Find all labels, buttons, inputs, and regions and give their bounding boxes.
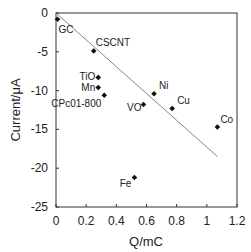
y-axis: 0-5-10-15-20-25: [31, 6, 59, 214]
plot-frame: [56, 13, 237, 207]
y-tick-label: -20: [31, 161, 49, 175]
x-axis: 00.20.40.60.811.2: [53, 204, 246, 228]
data-point-marker: [95, 85, 101, 91]
data-point-label: GC: [59, 24, 74, 35]
data-point-marker: [141, 102, 147, 108]
data-point-marker: [101, 92, 107, 98]
data-point-marker: [151, 91, 157, 97]
x-tick-label: 1.2: [229, 214, 246, 228]
data-point-label: Mn: [81, 82, 95, 93]
y-axis-label: Current/μA: [8, 78, 23, 141]
y-tick-label: 0: [41, 6, 48, 20]
x-tick-label: 0.4: [108, 214, 125, 228]
data-point-label: TiO: [79, 71, 95, 82]
y-tick-label: -5: [37, 45, 48, 59]
scatter-chart: 00.20.40.60.811.2 0-5-10-15-20-25 GCCSCN…: [0, 0, 251, 252]
x-tick-label: 0.8: [168, 214, 185, 228]
data-point-label: VO: [127, 102, 142, 113]
y-tick-label: -15: [31, 122, 49, 136]
data-point-marker: [132, 175, 138, 181]
y-tick-label: -10: [31, 84, 49, 98]
data-point-label: Cu: [177, 95, 190, 106]
data-point-label: Fe: [120, 178, 132, 189]
data-point-marker: [95, 75, 101, 81]
data-point-marker: [215, 124, 221, 130]
x-axis-label: Q/mC: [129, 234, 163, 249]
data-point-label: Ni: [159, 80, 168, 91]
x-tick-label: 1: [203, 214, 210, 228]
x-tick-label: 0: [53, 214, 60, 228]
y-tick-label: -25: [31, 200, 49, 214]
data-point-label: CSCNT: [96, 37, 130, 48]
data-points: GCCSCNTTiOMnCPc01-800VONiCuCoFe: [51, 16, 233, 188]
x-tick-label: 0.6: [138, 214, 155, 228]
trend-line: [56, 13, 217, 157]
x-tick-label: 0.2: [78, 214, 95, 228]
data-point-label: CPc01-800: [51, 98, 101, 109]
data-point-marker: [91, 48, 97, 54]
data-point-marker: [169, 106, 175, 112]
data-point-label: Co: [220, 114, 233, 125]
